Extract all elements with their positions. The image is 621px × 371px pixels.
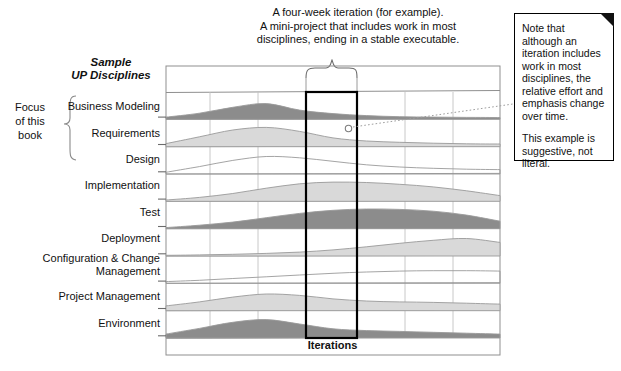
discipline-area-environment [166, 320, 500, 338]
note-paragraph-2: This example is suggestive, not literal. [522, 132, 607, 170]
row-label-implementation: Implementation [20, 179, 164, 192]
row-label-environment: Environment [20, 317, 164, 330]
discipline-area-design [166, 156, 500, 174]
row-label-deployment: Deployment [20, 232, 164, 245]
row-label-column: Business Modeling Requirements Design Im… [20, 0, 164, 371]
row-label-ccm-line-2: Management [96, 265, 160, 277]
discipline-area-implementation [166, 182, 500, 201]
row-label-configuration-and-change-management: Configuration & Change Management [20, 252, 164, 277]
discipline-area-configuration-change-management [166, 271, 500, 284]
row-label-business-modeling: Business Modeling [20, 100, 164, 113]
note-callout-box: Note that although an iteration includes… [514, 13, 614, 161]
note-leader-line [353, 104, 513, 127]
note-anchor-dot [345, 125, 351, 131]
row-label-project-management: Project Management [20, 290, 164, 303]
x-axis-label: Iterations [260, 339, 405, 351]
row-label-requirements: Requirements [20, 127, 164, 140]
note-paragraph-1: Note that although an iteration includes… [522, 22, 607, 122]
row-label-test: Test [20, 206, 164, 219]
discipline-area-project-management [166, 294, 500, 311]
iteration-brace [306, 60, 357, 78]
discipline-area-requirements [166, 127, 500, 146]
discipline-area-business-modeling [166, 104, 500, 120]
note-callout-text: Note that although an iteration includes… [522, 22, 607, 170]
discipline-rows [166, 104, 500, 338]
row-label-ccm-line-1: Configuration & Change [43, 252, 160, 264]
figure-canvas: A four-week iteration (for example). A m… [0, 0, 621, 371]
row-label-design: Design [20, 153, 164, 166]
discipline-area-deployment [166, 238, 500, 256]
discipline-area-test [166, 209, 500, 229]
